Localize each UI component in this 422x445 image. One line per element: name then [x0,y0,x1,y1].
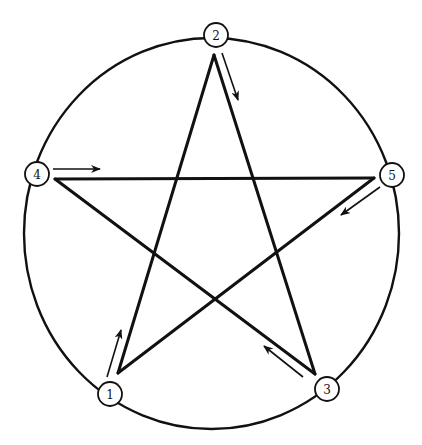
node-label: 1 [106,388,114,402]
arrow-icon-from-node-5 [341,187,380,215]
node-5: 5 [380,163,404,187]
node-1: 1 [98,382,122,406]
pentagram-diagram: 12345 [0,0,422,445]
node-label: 3 [323,383,331,397]
node-label: 4 [33,168,41,182]
star-edge-1-2 [118,55,214,373]
node-2: 2 [204,23,228,47]
numbered-nodes: 12345 [25,23,404,406]
node-3: 3 [315,377,339,401]
star-edge-2-3 [214,55,315,374]
node-label: 2 [212,29,220,43]
outer-circle [24,38,399,429]
arrow-icon-from-node-2 [222,53,238,100]
outer-circle-layer [24,38,399,429]
node-4: 4 [25,162,49,186]
star-edge-4-5 [55,178,374,179]
star-edge-3-4 [55,179,315,374]
diagram-canvas: 12345 [0,0,422,445]
node-label: 5 [388,169,396,183]
star-edge-5-1 [118,178,374,373]
pentagram-star [55,55,374,374]
